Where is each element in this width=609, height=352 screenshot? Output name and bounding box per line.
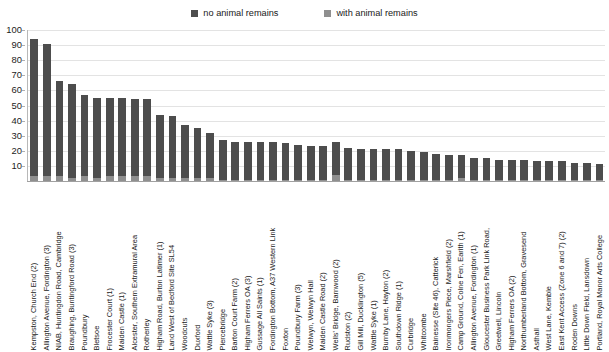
bar-segment-with-animal-remains[interactable] [118,176,126,181]
stacked-bar[interactable] [294,145,302,181]
bar-segment-no-animal-remains[interactable] [43,44,51,177]
bar-segment-with-animal-remains[interactable] [583,180,591,182]
bar-slot[interactable] [129,30,142,181]
bar-slot[interactable] [78,30,91,181]
bar-segment-no-animal-remains[interactable] [370,149,378,179]
bar-slot[interactable] [116,30,129,181]
bar-segment-no-animal-remains[interactable] [244,142,252,180]
bar-slot[interactable] [91,30,104,181]
stacked-bar[interactable] [470,158,478,181]
bar-segment-no-animal-remains[interactable] [156,115,164,178]
bar-slot[interactable] [417,30,430,181]
bar-segment-no-animal-remains[interactable] [131,99,139,176]
bar-segment-with-animal-remains[interactable] [282,180,290,182]
stacked-bar[interactable] [56,81,64,181]
stacked-bar[interactable] [269,142,277,181]
stacked-bar[interactable] [458,155,466,181]
bar-slot[interactable] [103,30,116,181]
bar-slot[interactable] [556,30,569,181]
bar-segment-no-animal-remains[interactable] [395,149,403,179]
bar-segment-with-animal-remains[interactable] [571,180,579,182]
bar-slot[interactable] [543,30,556,181]
bar-segment-no-animal-remains[interactable] [420,152,428,179]
bar-slot[interactable] [505,30,518,181]
bar-segment-no-animal-remains[interactable] [181,125,189,178]
bar-segment-no-animal-remains[interactable] [269,142,277,180]
bar-segment-no-animal-remains[interactable] [219,140,227,179]
bar-slot[interactable] [342,30,355,181]
bar-segment-no-animal-remains[interactable] [93,98,101,178]
bar-slot[interactable] [531,30,544,181]
bar-segment-no-animal-remains[interactable] [344,148,352,180]
bar-segment-no-animal-remains[interactable] [596,164,604,179]
bar-segment-no-animal-remains[interactable] [169,116,177,178]
bar-segment-no-animal-remains[interactable] [407,151,415,180]
bar-slot[interactable] [229,30,242,181]
bar-segment-no-animal-remains[interactable] [56,81,64,176]
bar-slot[interactable] [204,30,217,181]
bar-segment-with-animal-remains[interactable] [156,178,164,181]
bar-segment-no-animal-remains[interactable] [30,39,38,176]
bar-slot[interactable] [430,30,443,181]
bar-segment-with-animal-remains[interactable] [106,176,114,181]
bar-segment-no-animal-remains[interactable] [458,155,466,178]
bar-slot[interactable] [367,30,380,181]
bar-segment-no-animal-remains[interactable] [231,142,239,180]
stacked-bar[interactable] [395,149,403,181]
bar-segment-with-animal-remains[interactable] [93,178,101,181]
bar-segment-with-animal-remains[interactable] [294,180,302,182]
bar-segment-with-animal-remains[interactable] [520,180,528,182]
bar-segment-with-animal-remains[interactable] [596,180,604,182]
stacked-bar[interactable] [357,149,365,181]
bar-segment-with-animal-remains[interactable] [344,180,352,182]
bar-segment-no-animal-remains[interactable] [495,160,503,180]
bar-segment-no-animal-remains[interactable] [257,142,265,180]
stacked-bar[interactable] [194,128,202,181]
stacked-bar[interactable] [169,116,177,181]
bar-segment-no-animal-remains[interactable] [382,149,390,179]
bar-slot[interactable] [267,30,280,181]
bar-segment-with-animal-remains[interactable] [257,180,265,182]
stacked-bar[interactable] [131,99,139,181]
bar-segment-with-animal-remains[interactable] [495,180,503,182]
bar-segment-with-animal-remains[interactable] [131,176,139,181]
bar-segment-no-animal-remains[interactable] [357,149,365,179]
bar-slot[interactable] [355,30,368,181]
bar-segment-with-animal-remains[interactable] [307,180,315,182]
bar-segment-no-animal-remains[interactable] [282,143,290,179]
bar-segment-no-animal-remains[interactable] [106,98,114,177]
stacked-bar[interactable] [118,98,126,181]
bar-slot[interactable] [593,30,606,181]
stacked-bar[interactable] [508,160,516,181]
bar-segment-no-animal-remains[interactable] [81,95,89,177]
bar-segment-no-animal-remains[interactable] [206,133,214,178]
bar-segment-no-animal-remains[interactable] [194,128,202,178]
bar-slot[interactable] [53,30,66,181]
bar-slot[interactable] [493,30,506,181]
bar-slot[interactable] [242,30,255,181]
bar-slot[interactable] [279,30,292,181]
bar-slot[interactable] [581,30,594,181]
bar-segment-with-animal-remains[interactable] [558,180,566,182]
bar-slot[interactable] [292,30,305,181]
bar-slot[interactable] [304,30,317,181]
bar-segment-with-animal-remains[interactable] [382,180,390,182]
bar-segment-with-animal-remains[interactable] [332,175,340,181]
bar-slot[interactable] [380,30,393,181]
bar-slot[interactable] [468,30,481,181]
bar-segment-no-animal-remains[interactable] [294,145,302,180]
bar-segment-with-animal-remains[interactable] [545,180,553,182]
bar-slot[interactable] [405,30,418,181]
bar-segment-with-animal-remains[interactable] [169,178,177,181]
stacked-bar[interactable] [257,142,265,181]
bar-segment-with-animal-remains[interactable] [56,176,64,181]
bar-segment-with-animal-remains[interactable] [533,180,541,182]
bar-slot[interactable] [28,30,41,181]
stacked-bar[interactable] [307,146,315,181]
bar-segment-with-animal-remains[interactable] [231,180,239,182]
bar-segment-with-animal-remains[interactable] [206,178,214,181]
bar-slot[interactable] [216,30,229,181]
bar-slot[interactable] [191,30,204,181]
bar-segment-with-animal-remains[interactable] [445,180,453,182]
bar-segment-with-animal-remains[interactable] [181,178,189,181]
